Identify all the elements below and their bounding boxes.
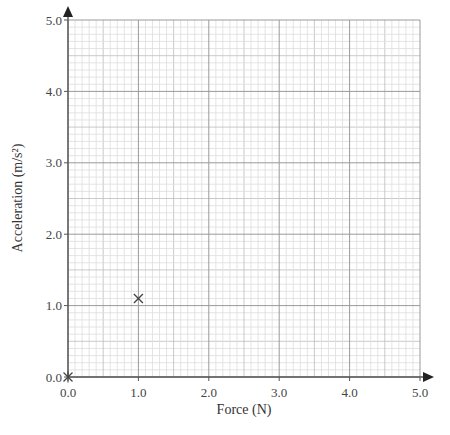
x-axis-arrow-icon: [423, 372, 434, 382]
y-tick-label: 1.0: [46, 298, 62, 313]
y-tick-label: 5.0: [46, 13, 62, 28]
x-tick-label: 3.0: [271, 385, 287, 400]
y-axis-arrow-icon: [63, 6, 73, 17]
x-tick-label: 5.0: [412, 385, 428, 400]
minor-grid: [68, 20, 420, 377]
x-tick-label: 0.0: [60, 385, 76, 400]
y-tick-label: 0.0: [46, 370, 62, 385]
graph-paper-chart: 0.01.02.03.04.05.0 0.01.02.03.04.05.0 Fo…: [0, 0, 450, 435]
y-axis-title: Acceleration (m/s²): [10, 143, 26, 252]
x-axis-title: Force (N): [217, 402, 272, 418]
x-tick-labels: 0.01.02.03.04.05.0: [60, 377, 428, 400]
axes: [63, 6, 434, 382]
x-tick-label: 1.0: [130, 385, 146, 400]
y-tick-label: 2.0: [46, 227, 62, 242]
y-tick-labels: 0.01.02.03.04.05.0: [46, 13, 68, 385]
x-tick-label: 2.0: [201, 385, 217, 400]
y-tick-label: 3.0: [46, 155, 62, 170]
x-tick-label: 4.0: [341, 385, 357, 400]
y-tick-label: 4.0: [46, 84, 62, 99]
